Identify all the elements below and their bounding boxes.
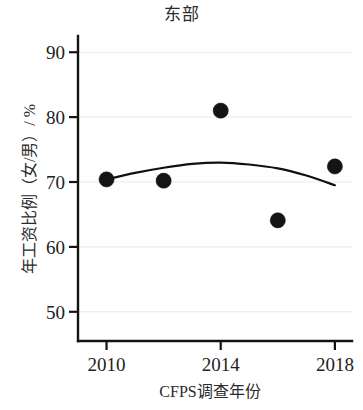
y-tick-label-80: 80: [46, 107, 65, 128]
x-tick-label-2018: 2018: [316, 354, 354, 375]
data-points-group: [99, 103, 343, 228]
x-tick-label-2010: 2010: [88, 354, 126, 375]
y-tick-label-60: 60: [46, 237, 65, 258]
y-tick-label-50: 50: [46, 302, 65, 323]
x-tick-marks-group: [107, 341, 335, 350]
gridlines-group: [78, 52, 352, 312]
x-tick-label-2014: 2014: [202, 354, 241, 375]
data-point-2012: [156, 173, 171, 188]
y-tick-marks-group: [69, 52, 78, 312]
y-tick-labels-group: 5060708090: [46, 42, 65, 323]
plot-area: 5060708090 201020142018: [0, 0, 363, 410]
data-point-2010: [99, 172, 114, 187]
y-tick-label-90: 90: [46, 42, 65, 63]
data-point-2014: [213, 103, 228, 118]
y-tick-label-70: 70: [46, 172, 65, 193]
x-tick-labels-group: 201020142018: [88, 354, 354, 375]
data-point-2016: [270, 213, 285, 228]
chart-figure: 东部 年工资比例（女/男）/ % CFPS调查年份 5060708090 201…: [0, 0, 363, 410]
data-point-2018: [327, 159, 342, 174]
